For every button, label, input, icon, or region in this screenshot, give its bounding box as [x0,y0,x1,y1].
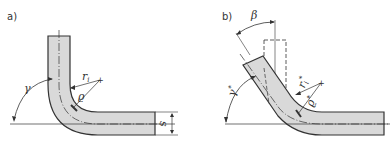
rho-label-a: ϱ [78,90,85,103]
panel-a: a) s γ + ri ϱ [7,11,178,135]
arrow-up-icon [170,113,174,117]
gamma-star-label: γ* [225,84,240,98]
arrow-icon [224,117,228,123]
thickness-label: s [157,121,170,127]
gamma-star-arc [226,77,254,122]
arrow-icon [236,30,241,35]
panel-a-label: a) [7,11,17,22]
panel-b: b) β γ* + ri* ϱ* [222,9,390,135]
gamma-arc-a [14,79,52,120]
bent-strip-a [48,36,155,135]
arrow-icon [12,116,16,122]
springback-strip-b [243,56,384,135]
beta-arc [237,22,274,34]
beta-ref-line [236,33,250,55]
bending-diagram: a) s γ + ri ϱ b) [0,0,390,145]
gamma-label-a: γ [24,82,31,95]
beta-label: β [250,9,257,22]
arrow-icon [270,20,275,24]
arrow-icon [295,91,301,95]
radius-label-b: ri* [295,75,312,91]
radius-label-a: ri [82,70,90,84]
bend-center-mark-b: + [318,79,325,88]
rho-label-b: ϱ* [303,94,319,108]
arrow-down-icon [170,130,174,134]
panel-b-label: b) [222,11,232,22]
